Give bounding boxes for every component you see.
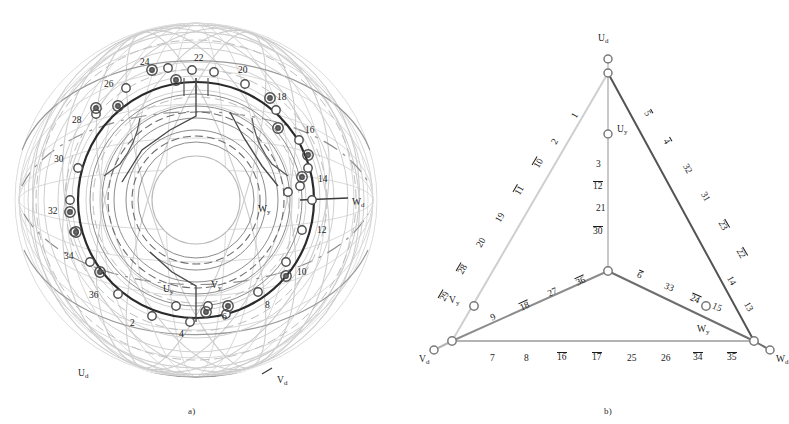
node-W_corner <box>750 337 758 345</box>
edge-number-base-35: 35 <box>727 352 737 363</box>
edge-U-to-Wd <box>608 73 754 341</box>
edge-number-middle_vertical-21: 21 <box>596 204 606 214</box>
node-V_y <box>470 302 478 310</box>
node-V_corner <box>448 337 456 345</box>
edge-number-base-34: 34 <box>693 352 703 363</box>
node-U_y <box>604 130 612 138</box>
edge-U-to-Vd <box>452 73 608 341</box>
caption-b: b) <box>604 406 612 416</box>
node-U_apex <box>604 69 612 77</box>
node-label-U_y: Uy <box>617 125 627 135</box>
node-label-V_y: Vy <box>449 296 459 306</box>
node-label-V_d: Vd <box>419 355 429 365</box>
node-W_y <box>702 302 710 310</box>
edge-number-base-25: 25 <box>627 354 637 364</box>
caption-a: a) <box>188 406 195 416</box>
panel-b-connection-diagram: UdUyVyVdWyWd 121011192028295432312322141… <box>400 0 789 424</box>
node-center <box>604 267 612 275</box>
node-label-W_d: Wd <box>776 355 788 365</box>
node-label-W_y: Wy <box>697 325 709 335</box>
edge-number-base-7: 7 <box>490 354 495 364</box>
edge-number-base-8: 8 <box>524 354 529 364</box>
edge-number-base-17: 17 <box>592 352 602 363</box>
node-U_d <box>604 55 612 63</box>
node-W_d <box>766 346 774 354</box>
edge-number-base-16: 16 <box>557 352 567 363</box>
edge-number-middle_vertical-12: 12 <box>593 181 603 192</box>
node-label-U_d: Ud <box>598 34 608 44</box>
node-V_d <box>430 346 438 354</box>
edge-number-middle_vertical-30: 30 <box>593 226 603 237</box>
figure-root: 24222026182816301432123410368246 WdUdVdW… <box>0 0 789 424</box>
edge-number-base-26: 26 <box>661 354 671 364</box>
edge-number-middle_vertical-3: 3 <box>596 160 601 170</box>
